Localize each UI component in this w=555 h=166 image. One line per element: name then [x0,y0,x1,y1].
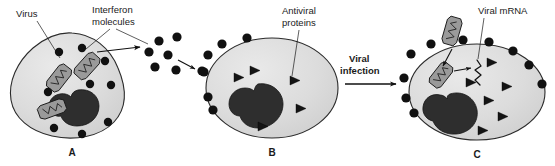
panel-a-group: A [10,33,124,158]
viral-infection-transition: Viral infection [340,53,396,84]
panel-letter-b: B [268,147,275,158]
viral-infection-label-line1: Viral [349,53,369,64]
panel-letter-a: A [68,147,75,158]
interferon-diagram: A Virus Interferon molecules [0,0,555,166]
panel-b-group: B [199,33,338,158]
viral-mrna-label: Viral mRNA [478,5,528,16]
antiviral-label-line1: Antiviral [282,5,316,16]
panel-letter-c: C [473,149,480,160]
interferon-label-line1: Interferon [92,4,133,15]
cell-c-membrane [409,44,545,140]
interferon-binding-arrow [178,60,195,69]
viral-infection-label-line2: infection [340,65,380,76]
panel-c-group: C [399,15,546,160]
antiviral-label-line2: proteins [282,17,316,28]
diagram-canvas: A Virus Interferon molecules [0,0,555,166]
virus-label: Virus [16,8,38,19]
interferon-label-line2: molecules [92,16,135,27]
